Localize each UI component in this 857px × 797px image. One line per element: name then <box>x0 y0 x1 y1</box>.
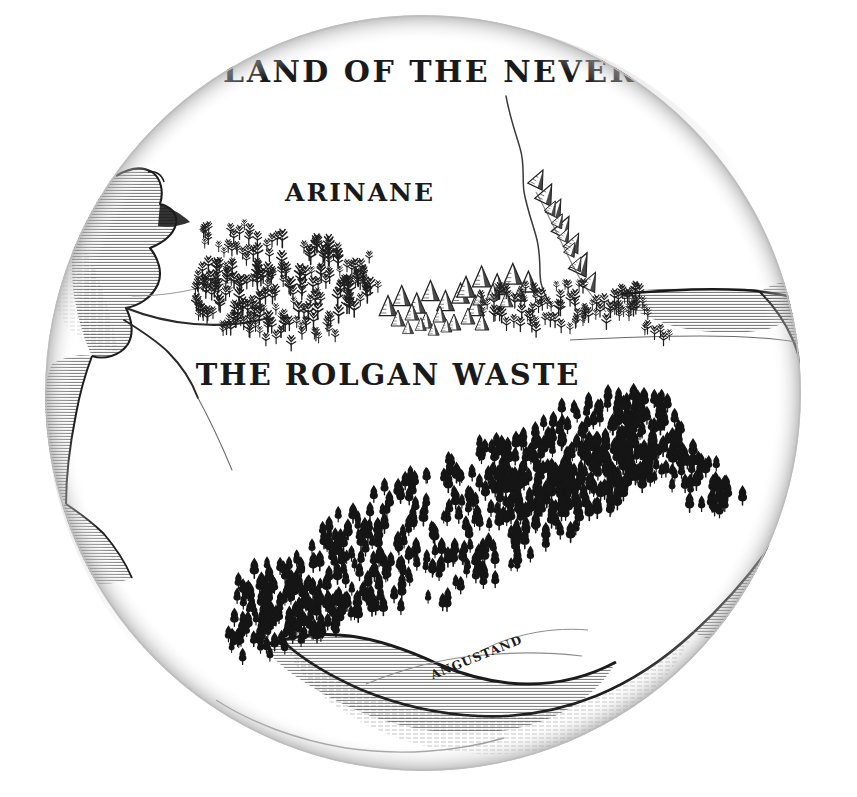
map-canvas: E LAND OF THE NEVERSARINANETHE ROLGAN WA… <box>0 0 857 797</box>
map-disk-edge <box>45 15 801 771</box>
map-illustration: E LAND OF THE NEVERSARINANETHE ROLGAN WA… <box>0 0 857 797</box>
